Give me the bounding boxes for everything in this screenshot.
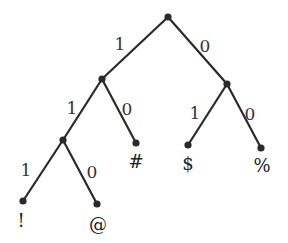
edge-label: 1 bbox=[115, 34, 126, 54]
node-n1 bbox=[98, 75, 105, 82]
tree-edges bbox=[23, 17, 261, 204]
node-leaf-hash bbox=[132, 139, 139, 146]
node-root bbox=[164, 13, 171, 20]
edge-label: 0 bbox=[122, 99, 133, 119]
edge-label: 0 bbox=[87, 162, 98, 182]
node-n0 bbox=[223, 80, 230, 87]
node-leaf-dollar bbox=[184, 141, 191, 148]
edge-root-n0 bbox=[168, 17, 227, 84]
leaf-labels: #$%!@ bbox=[17, 151, 270, 235]
node-leaf-percent bbox=[257, 144, 264, 151]
edge-label: 1 bbox=[190, 103, 201, 123]
code-tree-diagram: 10101010 #$%!@ bbox=[0, 0, 288, 243]
edge-label: 0 bbox=[200, 36, 211, 56]
leaf-symbol-label: # bbox=[128, 151, 143, 172]
leaf-symbol-label: $ bbox=[182, 153, 193, 174]
leaf-symbol-label: @ bbox=[89, 214, 107, 235]
leaf-symbol-label: % bbox=[253, 155, 270, 176]
edge-label: 0 bbox=[245, 104, 256, 124]
edge-label: 1 bbox=[67, 98, 78, 118]
node-leaf-excl bbox=[19, 197, 26, 204]
edge-label: 1 bbox=[21, 160, 32, 180]
node-leaf-at bbox=[93, 200, 100, 207]
leaf-symbol-label: ! bbox=[17, 210, 24, 231]
edge-root-n1 bbox=[102, 17, 168, 79]
node-n11 bbox=[59, 136, 66, 143]
